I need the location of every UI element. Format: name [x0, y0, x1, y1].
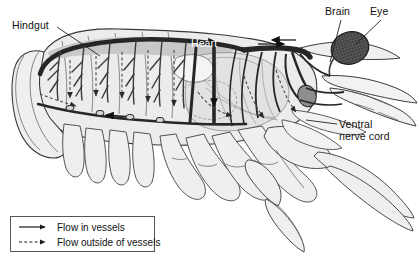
legend-item-flow-in-vessels: Flow in vessels — [17, 220, 125, 234]
label-brain: Brain — [325, 5, 350, 17]
label-eye: Eye — [370, 5, 388, 17]
label-ventral-nerve-cord: Ventral nerve cord — [339, 118, 409, 142]
label-ventral-line2: nerve cord — [339, 130, 390, 142]
legend-label-flow-outside-vessels: Flow outside of vessels — [57, 237, 160, 248]
anatomy-figure: Hindgut Heart Brain Eye Ventral nerve co… — [0, 0, 419, 271]
legend-box: Flow in vessels Flow outside of vessels — [10, 216, 155, 252]
label-hindgut: Hindgut — [12, 19, 49, 31]
dashed-arrow-icon — [17, 237, 51, 247]
leader-eye — [356, 20, 381, 44]
solid-arrow-icon — [17, 222, 51, 232]
label-heart: Heart — [191, 37, 217, 49]
label-ventral-line1: Ventral — [339, 118, 372, 130]
legend-item-flow-outside-vessels: Flow outside of vessels — [17, 235, 160, 249]
legend-label-flow-in-vessels: Flow in vessels — [57, 222, 125, 233]
